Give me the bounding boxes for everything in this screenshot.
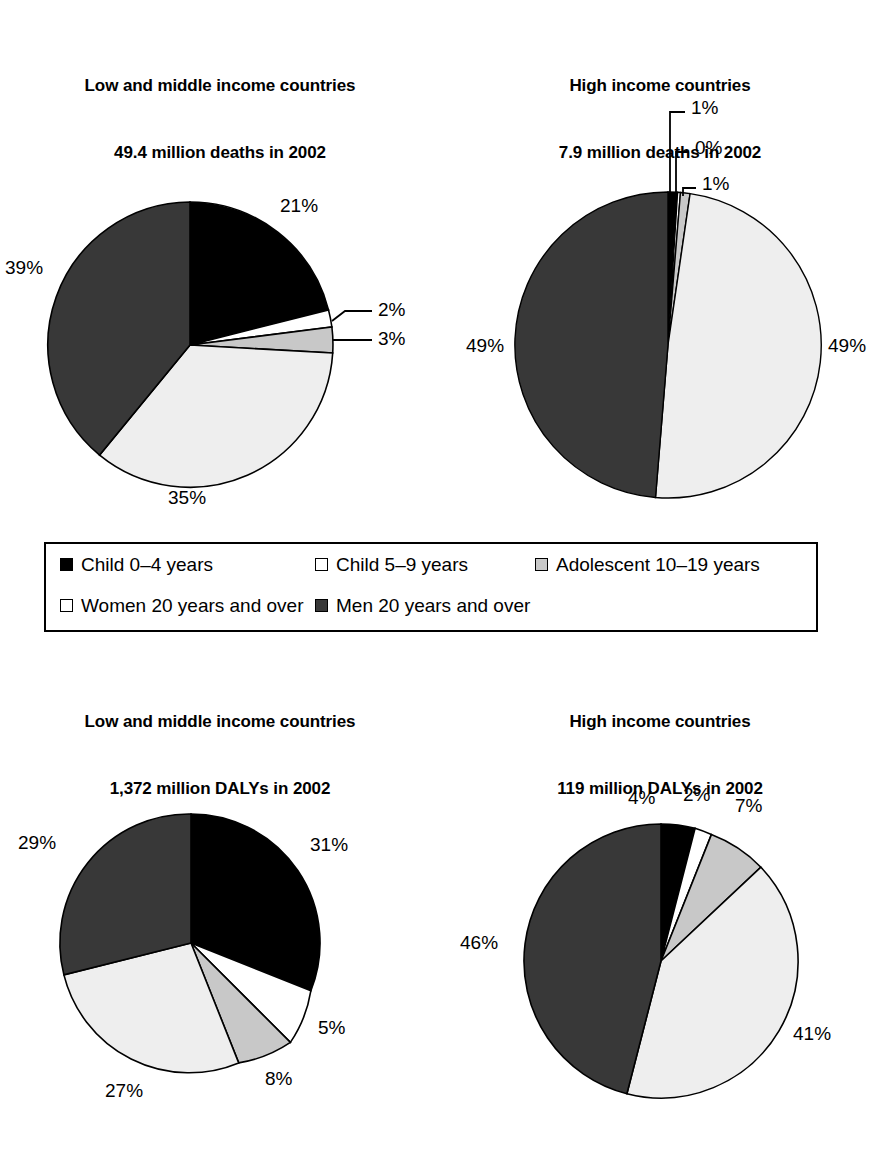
legend-row-1: Child 0–4 years Child 5–9 years Adolesce… [60,555,760,574]
pct-label-child-5-9-4: 2% [683,784,710,806]
chart-title-3-line2: 1,372 million DALYs in 2002 [10,778,430,800]
pie-chart-dalys-high-income: 4% 2% 7% 41% 46% [522,822,800,1100]
pct-label-men-1: 39% [5,257,43,279]
pct-label-child-0-4-3: 31% [310,834,348,856]
pie-svg-4 [522,822,800,1100]
chart-title-4: High income countries 119 million DALYs … [450,666,870,846]
legend-label-child-5-9: Child 5–9 years [336,555,468,574]
pie-chart-dalys-low-middle-income: 31% 5% 8% 27% 29% [60,812,322,1074]
legend-row-2: Women 20 years and over Men 20 years and… [60,596,530,615]
pct-label-women-3: 27% [105,1080,143,1102]
leader-lines-1 [332,311,372,340]
pct-label-child-5-9-2: 0% [695,137,722,159]
pie-chart-deaths-high-income: 1% 0% 1% 49% 49% [513,190,823,500]
pct-label-women-4: 41% [793,1023,831,1045]
legend-swatch-adolescent-10-19-icon [535,558,548,571]
pct-label-women-1: 35% [168,487,206,509]
pct-label-adolescent-3: 8% [265,1068,292,1090]
pie-svg-2 [513,190,823,500]
chart-title-4-line2: 119 million DALYs in 2002 [450,778,870,800]
pct-label-men-3: 29% [18,832,56,854]
pct-label-child-5-9-3: 5% [318,1017,345,1039]
legend-swatch-child-0-4-icon [60,558,73,571]
chart-title-1: Low and middle income countries 49.4 mil… [10,30,430,210]
chart-title-2-line1: High income countries [450,75,870,97]
pct-label-child-0-4-4: 4% [628,787,655,809]
legend-item-men-20-over: Men 20 years and over [315,596,530,615]
legend-label-adolescent-10-19: Adolescent 10–19 years [556,555,760,574]
pct-label-child-5-9-1: 2% [378,299,405,321]
legend-item-women-20-over: Women 20 years and over [60,596,315,615]
chart-title-1-line1: Low and middle income countries [10,75,430,97]
chart-title-1-line2: 49.4 million deaths in 2002 [10,142,430,164]
legend: Child 0–4 years Child 5–9 years Adolesce… [44,542,818,632]
pct-label-adolescent-1: 3% [378,328,405,350]
legend-label-women-20-over: Women 20 years and over [81,596,304,615]
pct-label-men-4: 46% [460,932,498,954]
legend-swatch-child-5-9-icon [315,558,328,571]
chart-title-2-line2: 7.9 million deaths in 2002 [450,142,870,164]
chart-title-2: High income countries 7.9 million deaths… [450,30,870,210]
legend-item-adolescent-10-19: Adolescent 10–19 years [535,555,760,574]
pct-label-adolescent-2: 1% [702,173,729,195]
chart-title-4-line1: High income countries [450,711,870,733]
pie-slice-men-20-over [515,192,668,498]
pct-label-child-0-4-1: 21% [280,195,318,217]
legend-item-child-5-9: Child 5–9 years [315,555,535,574]
legend-label-child-0-4: Child 0–4 years [81,555,213,574]
legend-swatch-men-20-over-icon [315,599,328,612]
pct-label-women-2: 49% [828,335,866,357]
pct-label-men-2: 49% [466,335,504,357]
legend-label-men-20-over: Men 20 years and over [336,596,530,615]
pct-label-adolescent-4: 7% [735,795,762,817]
pie-svg-1 [45,200,335,490]
pie-chart-deaths-low-middle-income: 21% 2% 3% 35% 39% [45,200,335,490]
pie-svg-3 [60,812,322,1074]
chart-title-3-line1: Low and middle income countries [10,711,430,733]
pct-label-child-0-4-2: 1% [691,97,718,119]
legend-swatch-women-20-over-icon [60,599,73,612]
legend-item-child-0-4: Child 0–4 years [60,555,315,574]
